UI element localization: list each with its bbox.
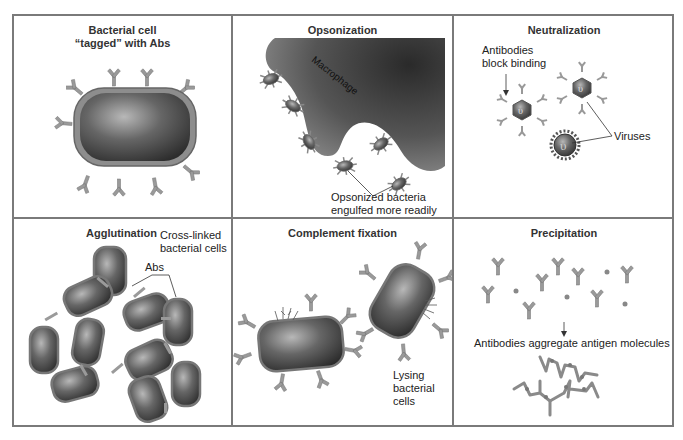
opsonization-callout: Opsonized bacteria engulfed more readily — [331, 191, 437, 217]
neutralization-illustration: υ υ υ — [454, 16, 674, 217]
bacterium-cytoplasm — [80, 93, 190, 161]
lysing-cells-label: Lysing bacterial cells — [393, 369, 435, 408]
panel-complement-fixation: Complement fixation Lysing bacterial cel… — [233, 219, 452, 425]
bacteria-cluster — [30, 247, 200, 425]
panel-neutralization: Neutralization Antibodies block binding … — [454, 16, 674, 217]
bacterium-cell — [363, 258, 441, 344]
panel-tagged: Bacterial cell “tagged” with Abs — [14, 16, 231, 217]
panel-precipitation: Precipitation — [454, 219, 674, 425]
svg-text:υ: υ — [578, 83, 583, 94]
aggregate-label: Antibodies aggregate antigen molecules — [474, 337, 670, 350]
svg-text:υ: υ — [518, 105, 523, 116]
panel-agglutination: Agglutination Cross-linked bacterial cel… — [14, 219, 231, 425]
antigen-molecules — [514, 270, 628, 307]
callout-line — [572, 102, 612, 143]
antibody-antigen-aggregate — [514, 357, 598, 415]
opsonization-illustration: Macrophage — [233, 16, 452, 217]
precipitation-illustration — [454, 219, 674, 425]
virus-icon: υ — [551, 131, 579, 159]
viruses-label: Viruses — [614, 130, 650, 143]
svg-text:υ: υ — [560, 138, 566, 153]
virus-icon: υ — [556, 62, 608, 115]
tagged-bacterium-illustration — [14, 16, 231, 217]
panel-opsonization: Opsonization Macrophage Opsonized bacter… — [233, 16, 452, 217]
arrow-down-icon — [503, 90, 509, 96]
bacterium-cell — [257, 315, 345, 372]
free-antibodies — [482, 258, 634, 319]
agglutination-illustration — [14, 219, 231, 425]
